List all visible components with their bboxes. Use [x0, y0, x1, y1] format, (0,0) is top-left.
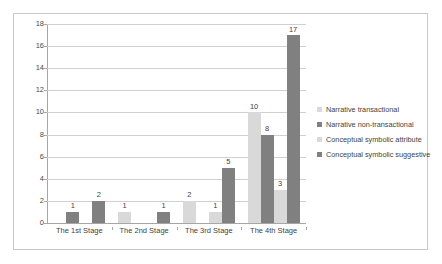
bar[interactable]	[66, 212, 79, 223]
bar-value-label: 5	[216, 158, 240, 166]
legend-swatch-icon	[317, 122, 322, 127]
y-tick-label: 6	[22, 153, 44, 161]
bar-group: 215	[177, 24, 242, 223]
bar[interactable]	[287, 35, 300, 223]
y-tick-label: 14	[22, 64, 44, 72]
y-tick-mark	[44, 24, 47, 25]
legend-item[interactable]: Conceptual symbolic attribute	[317, 132, 425, 147]
bar-value-label: 17	[281, 26, 305, 34]
y-axis: 024681012141618	[19, 24, 44, 223]
x-tick-label: The 3rd Stage	[177, 227, 242, 235]
bar-group: 108317	[241, 24, 306, 223]
y-tick-label: 16	[22, 42, 44, 50]
y-tick-label: 0	[22, 219, 44, 227]
x-tick-label: The 2nd Stage	[112, 227, 177, 235]
bar-value-label: 10	[242, 103, 266, 111]
gridline	[47, 223, 306, 224]
y-tick-mark	[44, 135, 47, 136]
bar-group: 12	[47, 24, 112, 223]
y-tick-label: 4	[22, 175, 44, 183]
x-axis-divider	[241, 227, 242, 230]
y-tick-mark	[44, 46, 47, 47]
y-tick-mark	[44, 201, 47, 202]
bar[interactable]	[118, 212, 131, 223]
bar[interactable]	[209, 212, 222, 223]
x-axis-divider	[306, 227, 307, 230]
y-tick-mark	[44, 112, 47, 113]
bar-value-label: 8	[255, 125, 279, 133]
bar-value-label: 1	[113, 202, 137, 210]
y-tick-mark	[44, 179, 47, 180]
bar-value-label: 2	[177, 191, 201, 199]
y-tick-label: 10	[22, 109, 44, 117]
x-axis: The 1st StageThe 2nd StageThe 3rd StageT…	[47, 227, 306, 243]
chart-container: 024681012141618 1211215108317 The 1st St…	[13, 13, 428, 250]
y-tick-mark	[44, 90, 47, 91]
y-tick-label: 2	[22, 197, 44, 205]
y-tick-label: 8	[22, 131, 44, 139]
bar-value-label: 2	[87, 191, 111, 199]
legend-swatch-icon	[317, 107, 322, 112]
bar[interactable]	[157, 212, 170, 223]
y-tick-label: 18	[22, 20, 44, 28]
x-tick-label: The 4th Stage	[241, 227, 306, 235]
legend-swatch-icon	[317, 137, 322, 142]
bar[interactable]	[222, 168, 235, 223]
legend-label: Narrative transactional	[326, 106, 399, 113]
legend-label: Narrative non-transactional	[326, 121, 414, 128]
bar[interactable]	[261, 135, 274, 223]
bar-group: 11	[112, 24, 177, 223]
chart-legend: Narrative transactionalNarrative non-tra…	[317, 102, 425, 162]
legend-item[interactable]: Narrative non-transactional	[317, 117, 425, 132]
bar[interactable]	[274, 190, 287, 223]
bar-value-label: 1	[152, 202, 176, 210]
x-tick-label: The 1st Stage	[47, 227, 112, 235]
legend-label: Conceptual symbolic attribute	[326, 136, 422, 143]
y-tick-mark	[44, 223, 47, 224]
bar[interactable]	[92, 201, 105, 223]
bar-value-label: 1	[61, 202, 85, 210]
plot-area: 1211215108317	[47, 24, 306, 223]
legend-item[interactable]: Narrative transactional	[317, 102, 425, 117]
legend-label: Conceptual symbolic suggestive	[326, 151, 430, 158]
legend-swatch-icon	[317, 152, 322, 157]
legend-item[interactable]: Conceptual symbolic suggestive	[317, 147, 425, 162]
x-axis-divider	[177, 227, 178, 230]
x-axis-divider	[112, 227, 113, 230]
y-tick-mark	[44, 68, 47, 69]
y-tick-mark	[44, 157, 47, 158]
bar[interactable]	[183, 201, 196, 223]
y-tick-label: 12	[22, 87, 44, 95]
